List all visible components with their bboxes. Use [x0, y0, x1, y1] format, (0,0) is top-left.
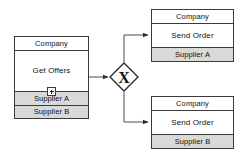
source-pool-header: Company — [15, 37, 88, 51]
source-pool[interactable]: Company Get Offers Supplier A Supplier B — [14, 36, 89, 119]
task-get-offers-label: Get Offers — [33, 67, 71, 75]
flow-gateway-to-supplier-b[interactable] — [124, 92, 148, 122]
supplier-b-lane-label: Supplier B — [175, 138, 211, 146]
supplier-b-task-area[interactable]: Send Order — [152, 111, 233, 135]
gateway-x-icon: X — [118, 69, 130, 86]
supplier-a-lane-label: Supplier A — [175, 51, 210, 59]
supplier-b-lane[interactable]: Supplier B — [152, 135, 233, 148]
plus-collapsed-subprocess-icon[interactable] — [47, 87, 56, 96]
supplier-b-pool-header: Company — [152, 97, 233, 111]
supplier-a-pool-header-label: Company — [176, 13, 209, 21]
supplier-a-pool[interactable]: Company Send Order Supplier A — [151, 9, 234, 62]
source-pool-header-label: Company — [35, 40, 68, 48]
source-lane-supplier-b[interactable]: Supplier B — [15, 105, 88, 118]
supplier-b-pool[interactable]: Company Send Order Supplier B — [151, 96, 234, 149]
flow-gateway-to-supplier-a[interactable] — [124, 35, 148, 62]
supplier-b-pool-header-label: Company — [176, 100, 209, 108]
source-lane-supplier-b-label: Supplier B — [34, 108, 70, 116]
exclusive-gateway[interactable]: X — [109, 62, 139, 92]
diagram-canvas: Company Get Offers Supplier A Supplier B… — [0, 0, 247, 162]
task-send-order-b-label: Send Order — [171, 119, 213, 127]
task-send-order-a-label: Send Order — [171, 32, 213, 40]
supplier-a-task-area[interactable]: Send Order — [152, 24, 233, 48]
supplier-a-lane[interactable]: Supplier A — [152, 48, 233, 61]
source-pool-task-area[interactable]: Get Offers — [15, 51, 88, 92]
supplier-a-pool-header: Company — [152, 10, 233, 24]
